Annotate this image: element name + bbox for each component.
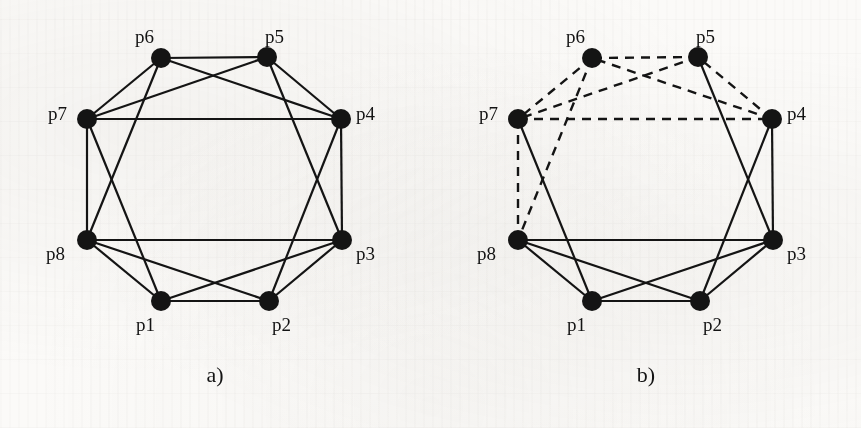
graph-node-label: p8 [46,244,65,263]
graph-node-label: p4 [356,104,375,123]
figure-root: p1p2p3p4p5p6p7p8 a) p1p2p3p4p5p6p7p8 b) [0,0,861,428]
graph-node-label: p8 [477,244,496,263]
solid-edge [87,58,161,119]
graph-node-label: p7 [48,104,67,123]
graph-node-label: p1 [567,315,586,334]
graph-node-label: p3 [787,244,806,263]
graph-node[interactable] [582,291,602,311]
graph-node[interactable] [77,230,97,250]
solid-edge [518,240,700,301]
dashed-edge [518,57,698,119]
graph-node[interactable] [257,47,277,67]
panel-caption-a: a) [0,362,430,388]
graph-node[interactable] [582,48,602,68]
solid-edge [592,240,773,301]
solid-edge [772,119,773,240]
node-layer-b [508,47,783,311]
graph-node[interactable] [508,230,528,250]
graph-node[interactable] [762,109,782,129]
graph-node[interactable] [508,109,528,129]
graph-node[interactable] [688,47,708,67]
graph-node[interactable] [690,291,710,311]
edge-layer-b [518,57,773,301]
graph-node[interactable] [151,48,171,68]
dashed-edge [518,58,592,119]
dashed-edge [592,57,698,58]
graph-node[interactable] [259,291,279,311]
graph-node-label: p6 [135,27,154,46]
node-layer-a [77,47,352,311]
solid-edge [267,57,341,119]
graph-node-label: p5 [265,27,284,46]
graph-node-label: p5 [696,27,715,46]
graph-node-label: p2 [272,315,291,334]
graph-node-label: p2 [703,315,722,334]
solid-edge [87,240,269,301]
graph-node-label: p6 [566,27,585,46]
solid-edge [518,240,592,301]
solid-edge [161,57,267,58]
graph-node-label: p7 [479,104,498,123]
graph-node-label: p3 [356,244,375,263]
solid-edge [87,57,267,119]
dashed-edge [592,58,772,119]
solid-edge [161,240,342,301]
solid-edge [341,119,342,240]
solid-edge [87,240,161,301]
figure-panel-a: p1p2p3p4p5p6p7p8 a) [0,0,430,428]
panel-caption-b: b) [431,362,861,388]
graph-node[interactable] [763,230,783,250]
edge-layer-a [87,57,342,301]
graph-node[interactable] [151,291,171,311]
graph-node-label: p4 [787,104,806,123]
graph-node[interactable] [331,109,351,129]
graph-node-label: p1 [136,315,155,334]
graph-diagram-b [431,0,861,360]
solid-edge [161,58,341,119]
graph-node[interactable] [77,109,97,129]
dashed-edge [698,57,772,119]
graph-diagram-a [0,0,430,360]
figure-panel-b: p1p2p3p4p5p6p7p8 b) [431,0,861,428]
graph-node[interactable] [332,230,352,250]
